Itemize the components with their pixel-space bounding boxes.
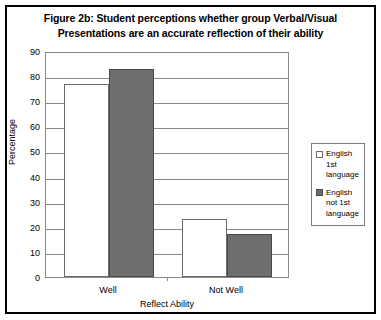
legend-swatch-dark-icon bbox=[316, 189, 323, 196]
x-tick-divider bbox=[167, 277, 168, 281]
plot-area bbox=[45, 52, 289, 278]
x-label-well: Well bbox=[99, 285, 116, 295]
chart-title-line-1: Figure 2b: Student perceptions whether g… bbox=[44, 12, 337, 24]
legend-swatch-light-icon bbox=[316, 151, 323, 158]
bar-notwell-english-not-1st bbox=[227, 234, 272, 277]
gridline-80 bbox=[46, 78, 288, 79]
x-label-not-well: Not Well bbox=[209, 285, 243, 295]
chart-legend: English 1st language English not 1st lan… bbox=[311, 143, 365, 226]
bar-notwell-english-1st bbox=[182, 219, 227, 277]
legend-item-english-1st: English 1st language bbox=[316, 149, 360, 181]
legend-item-english-not-1st: English not 1st language bbox=[316, 188, 360, 220]
chart-title-line-2: Presentations are an accurate reflection… bbox=[20, 26, 361, 41]
legend-label-english-not-1st: English not 1st language bbox=[326, 188, 359, 220]
bar-well-english-not-1st bbox=[109, 69, 154, 277]
bar-well-english-1st bbox=[64, 84, 109, 277]
legend-label-english-1st: English 1st language bbox=[326, 149, 359, 181]
figure-container: Figure 2b: Student perceptions whether g… bbox=[0, 0, 381, 320]
x-axis-title: Reflect Ability bbox=[45, 299, 289, 309]
chart-title: Figure 2b: Student perceptions whether g… bbox=[20, 11, 361, 41]
y-axis-title: Percentage bbox=[7, 119, 17, 165]
